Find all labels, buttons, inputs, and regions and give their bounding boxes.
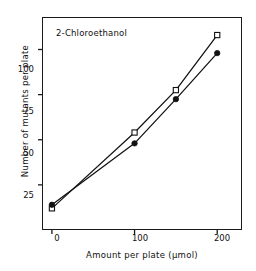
compound-annotation: 2-Chloroethanol (56, 28, 127, 38)
x-axis-title: Amount per plate (µmol) (42, 250, 242, 260)
plot-frame (42, 17, 242, 230)
y-axis-title: Number of mutants per plate (20, 31, 30, 191)
x-tick-label-0: 0 (42, 234, 72, 243)
y-tick-label-25: 25 (8, 191, 34, 200)
chart-figure: 2-Chloroethanol 25 50 75 100 0 100 200 N… (0, 0, 256, 271)
x-tick-label-200: 200 (207, 234, 237, 243)
x-tick-label-100: 100 (125, 234, 155, 243)
